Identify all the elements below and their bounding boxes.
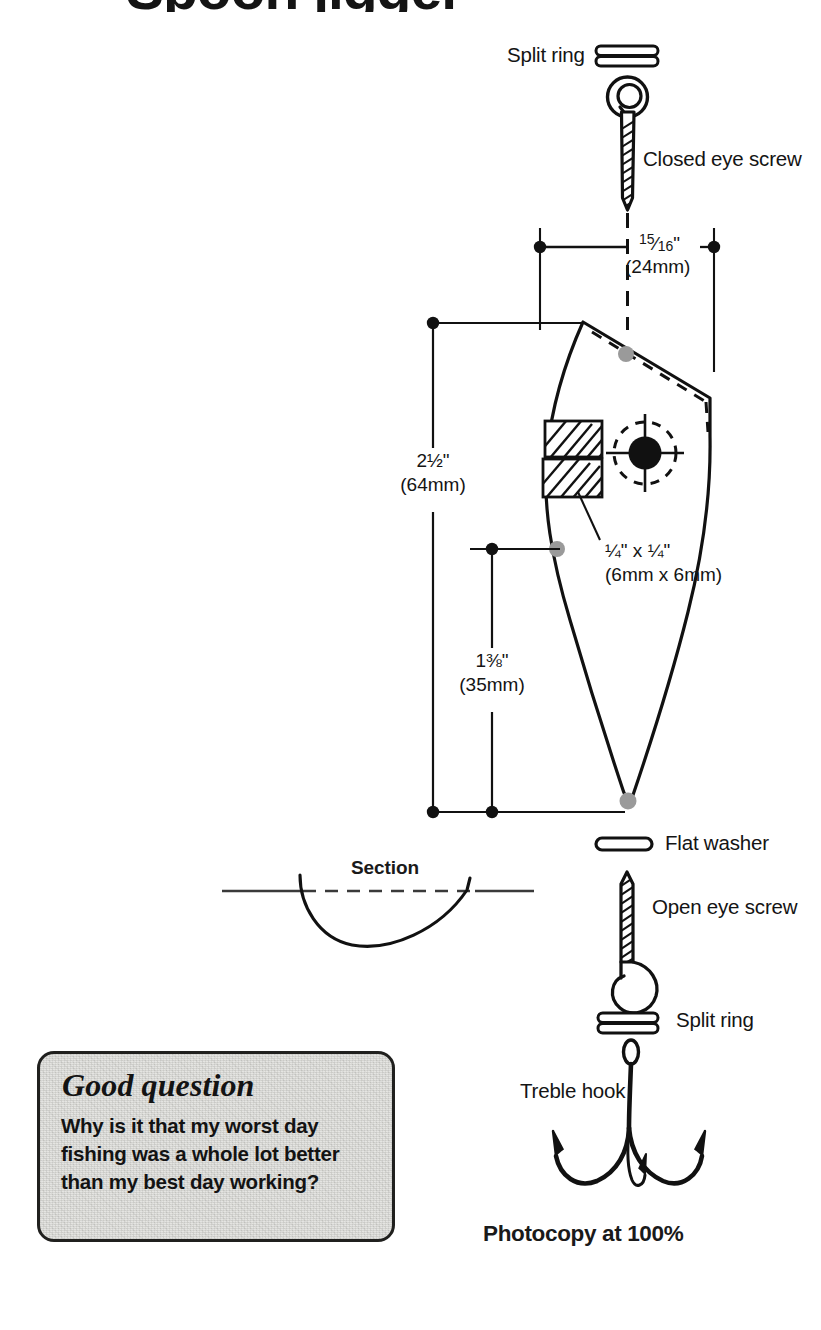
partial-length-metric: (35mm) (437, 674, 547, 696)
photocopy-note: Photocopy at 100% (483, 1221, 683, 1247)
section-view-label: Section (351, 857, 419, 879)
marker-top (618, 346, 634, 362)
section-profile-icon (222, 875, 534, 946)
total-length-metric: (64mm) (378, 474, 488, 496)
slot-dimension-metric: (6mm x 6mm) (605, 564, 775, 586)
flat-washer-label: Flat washer (665, 832, 769, 855)
diagram-page: Spoon jigger (0, 0, 821, 1330)
good-question-body: Why is it that my worst day fishing was … (61, 1112, 383, 1196)
width-dimension-inches: 15⁄16" (639, 232, 719, 255)
marker-bottom (620, 793, 637, 810)
partial-length-inches: 1⅜" (442, 650, 542, 672)
closed-eye-screw-label: Closed eye screw (643, 148, 802, 171)
open-eye-screw-label: Open eye screw (652, 896, 797, 919)
total-length-inches: 2½" (383, 450, 483, 472)
closed-eye-screw-icon (608, 77, 648, 210)
treble-hook-icon (553, 1040, 705, 1185)
split-ring-bottom-label: Split ring (676, 1009, 754, 1032)
good-question-heading: Good question (62, 1067, 254, 1104)
split-ring-top-label: Split ring (507, 44, 585, 67)
flat-washer-icon (596, 838, 652, 850)
good-question-box: Good question Why is it that my worst da… (37, 1051, 395, 1242)
split-ring-icon (596, 46, 658, 66)
width-dimension-metric: (24mm) (625, 256, 735, 278)
treble-hook-label: Treble hook (520, 1080, 625, 1103)
open-eye-screw-icon (612, 872, 656, 1013)
slot-dimension-inches: ¼" x ¼" (605, 540, 755, 562)
width-numerator: 15 (639, 231, 655, 247)
split-ring-bottom-icon (598, 1013, 658, 1033)
width-unit: " (673, 233, 680, 254)
width-denominator: 16 (658, 238, 674, 254)
